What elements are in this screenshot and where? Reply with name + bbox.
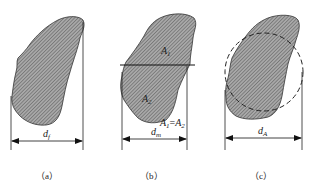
- particle-shape: [12, 17, 84, 126]
- caption-c: （c）: [250, 171, 272, 181]
- dimension-label-df: df: [43, 128, 51, 141]
- particle-shape: [121, 14, 196, 123]
- caption-b: （b）: [140, 171, 163, 181]
- panel-a: df （a）: [11, 17, 84, 181]
- panel-b: A1 A2 A1=A2 dm （b）: [120, 14, 196, 181]
- caption-a: （a）: [36, 171, 58, 181]
- particle-shape: [226, 15, 300, 119]
- particle-diameter-diagram: df （a） A1 A2 A1=A2 dm （b） dA （c）: [0, 0, 310, 195]
- area-equation: A1=A2: [159, 117, 185, 130]
- panel-c: dA （c）: [225, 15, 303, 181]
- dimension-label-da: dA: [258, 125, 268, 138]
